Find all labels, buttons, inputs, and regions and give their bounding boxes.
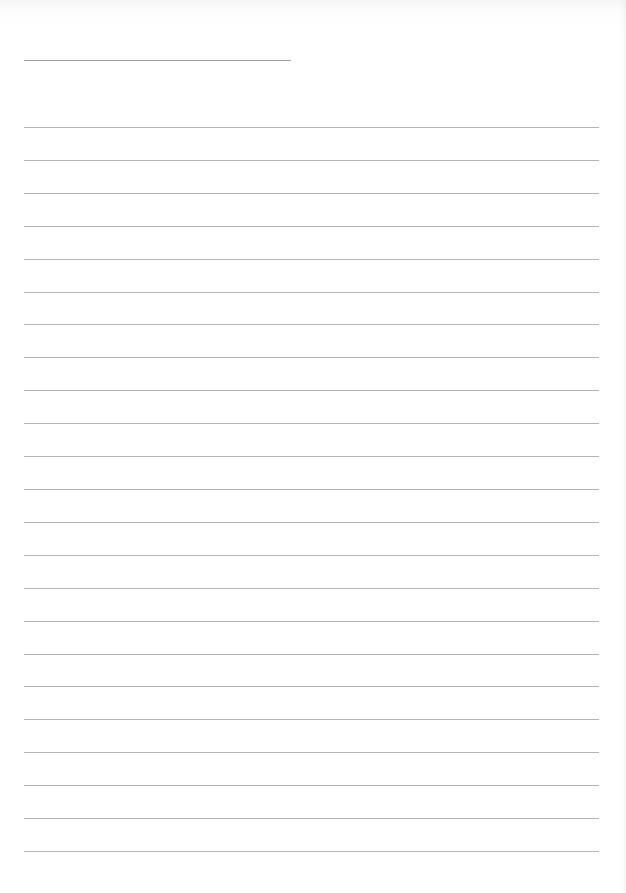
scan-edge-shadow — [620, 0, 626, 893]
lined-paper-page — [0, 0, 626, 893]
ruled-line — [24, 127, 599, 128]
ruled-line — [24, 160, 599, 161]
ruled-line — [24, 226, 599, 227]
ruled-line — [24, 489, 599, 490]
ruled-line — [24, 193, 599, 194]
ruled-line — [24, 654, 599, 655]
title-line — [24, 60, 291, 61]
ruled-line — [24, 621, 599, 622]
ruled-line — [24, 324, 599, 325]
ruled-line — [24, 259, 599, 260]
ruled-line — [24, 719, 599, 720]
ruled-line — [24, 456, 599, 457]
ruled-line — [24, 292, 599, 293]
ruled-line — [24, 357, 599, 358]
ruled-line — [24, 423, 599, 424]
ruled-line — [24, 818, 599, 819]
ruled-line — [24, 555, 599, 556]
ruled-line — [24, 752, 599, 753]
ruled-line — [24, 588, 599, 589]
ruled-line — [24, 785, 599, 786]
ruled-line — [24, 390, 599, 391]
ruled-line — [24, 851, 599, 852]
ruled-line — [24, 522, 599, 523]
ruled-line — [24, 686, 599, 687]
